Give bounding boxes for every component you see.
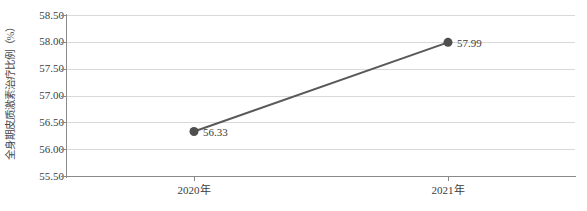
data-point-label-2021: 57.99 [457, 38, 482, 49]
series-line [194, 42, 448, 131]
data-series [0, 0, 587, 211]
data-point-marker [444, 38, 453, 47]
data-point-marker [190, 127, 199, 136]
line-chart: 全身期皮质激素治疗比例（%） 58.50 58.00 57.50 57.00 5… [0, 0, 587, 211]
data-point-label-2020: 56.33 [203, 127, 228, 138]
